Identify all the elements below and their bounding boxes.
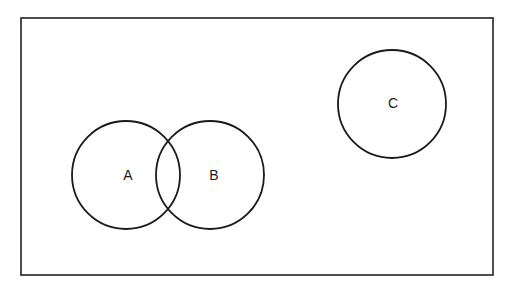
set-b: B: [156, 121, 264, 229]
set-c-label: C: [388, 95, 398, 111]
universal-set-rectangle: [21, 18, 493, 275]
set-a-label: A: [123, 167, 133, 183]
set-c: C: [338, 50, 446, 158]
set-b-label: B: [209, 167, 218, 183]
set-a: A: [72, 121, 180, 229]
venn-diagram: A B C: [0, 0, 515, 289]
